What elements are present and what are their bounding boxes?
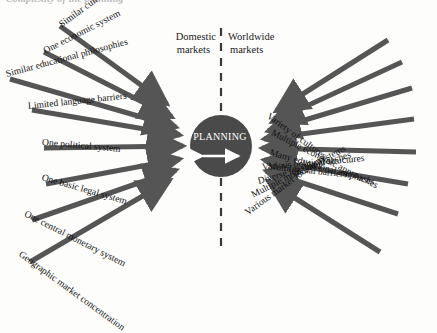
planning-circle (190, 115, 252, 177)
worldwide-markets-header: Worldwide markets (228, 31, 300, 56)
domestic-markets-line1: Domestic (152, 31, 216, 44)
domestic-markets-header: Domestic markets (152, 31, 216, 56)
worldwide-markets-line1: Worldwide (228, 31, 300, 44)
domestic-markets-line2: markets (152, 44, 216, 57)
worldwide-markets-line2: markets (228, 44, 300, 57)
